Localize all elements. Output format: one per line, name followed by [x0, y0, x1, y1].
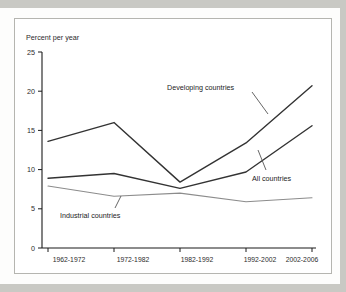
series-layer: [48, 86, 312, 202]
chart-page: Percent per year 25 20 15 10 5 0: [0, 0, 346, 292]
industrial-countries-leader-line: [115, 196, 121, 208]
all-countries-leader-line: [258, 150, 266, 170]
y-axis-ticks: [38, 52, 42, 248]
annotation-leader-lines: [115, 92, 268, 208]
y-axis-title: Percent per year: [26, 33, 80, 42]
series-label-developing-countries: Developing countries: [167, 83, 235, 92]
y-tick-label-5: 5: [31, 204, 35, 213]
x-category-label-0: 1962-1972: [53, 256, 86, 263]
x-category-label-4: 2002-2006: [286, 256, 319, 263]
series-label-industrial-countries: Industrial countries: [60, 211, 121, 220]
developing-countries-leader-line: [252, 92, 268, 114]
line-chart: Percent per year 25 20 15 10 5 0: [14, 18, 332, 274]
series-label-all-countries: All countries: [252, 174, 292, 183]
x-category-label-2: 1982-1992: [181, 256, 214, 263]
y-tick-label-20: 20: [27, 87, 35, 96]
y-axis-tick-labels: 25 20 15 10 5 0: [27, 48, 35, 253]
x-axis-ticks: [48, 248, 312, 252]
y-tick-label-10: 10: [27, 165, 35, 174]
x-axis-category-labels: 1962-1972 1972-1982 1982-1992 1992-2002 …: [53, 256, 319, 263]
series-line-developing-countries: [48, 86, 312, 182]
x-category-label-1: 1972-1982: [117, 256, 150, 263]
y-tick-label-15: 15: [27, 126, 35, 135]
y-tick-label-25: 25: [27, 48, 35, 57]
x-category-label-3: 1992-2002: [244, 256, 277, 263]
y-tick-label-0: 0: [31, 244, 35, 253]
